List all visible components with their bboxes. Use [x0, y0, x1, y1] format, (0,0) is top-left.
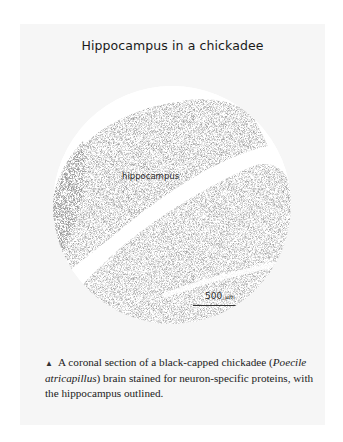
scale-unit: µm [225, 293, 235, 300]
figure-title: Hippocampus in a chickadee [20, 38, 325, 53]
micrograph-image: hippocampus 500 µm [53, 86, 291, 324]
hippocampus-label: hippocampus [122, 171, 179, 181]
figure-panel: Hippocampus in a chickadee hippocampus 5… [20, 24, 325, 425]
scale-bar-label: 500 µm [205, 291, 235, 301]
caption-text-start: A coronal section of a black-capped chic… [56, 356, 273, 368]
stained-tissue-graphic [53, 86, 291, 324]
scale-bar [193, 305, 241, 306]
figure-caption: ▲ A coronal section of a black-capped ch… [45, 355, 315, 401]
scale-value: 500 [205, 291, 222, 301]
triangle-marker-icon: ▲ [45, 359, 53, 368]
